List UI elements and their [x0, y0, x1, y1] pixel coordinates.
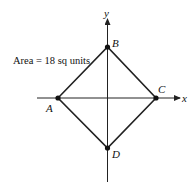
point-b-label: B — [112, 37, 119, 49]
point-a-dot — [55, 95, 60, 100]
point-a-label: A — [45, 102, 53, 114]
point-d-dot — [105, 145, 110, 150]
point-d-label: D — [111, 148, 120, 160]
point-c-dot — [153, 95, 158, 100]
coordinate-diagram: y x B C A D Area = 18 sq units — [0, 0, 195, 192]
point-c-label: C — [158, 83, 166, 95]
point-b-dot — [105, 44, 110, 49]
y-axis-label: y — [103, 7, 109, 19]
area-label: Area = 18 sq units — [13, 55, 90, 66]
x-axis-label: x — [181, 92, 187, 104]
